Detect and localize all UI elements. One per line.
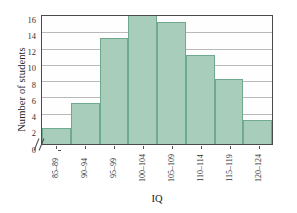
y-tick-label: 2 xyxy=(20,129,36,138)
x-tick-cell: 100–104 xyxy=(128,146,157,192)
x-tick-cell: 110–114 xyxy=(186,146,215,192)
y-tick-label: 8 xyxy=(20,81,36,90)
x-tick-cell: 85–89 xyxy=(41,146,70,192)
x-tick-label: 95–99 xyxy=(110,158,118,178)
x-tick-label: 85–89 xyxy=(52,158,60,178)
bar xyxy=(157,22,186,144)
plot-area xyxy=(41,15,273,145)
x-tick-mark xyxy=(85,146,86,149)
x-axis-title: IQ xyxy=(41,193,273,204)
y-tick-label: 16 xyxy=(20,16,36,25)
x-tick-mark xyxy=(114,146,115,149)
x-tick-label: 120–124 xyxy=(255,154,263,182)
histogram-figure: Number of students 0246810121416 85–8990… xyxy=(0,0,297,213)
y-tick-label: 12 xyxy=(20,48,36,57)
y-axis-tick-labels: 0246810121416 xyxy=(20,10,36,145)
x-tick-cell: 95–99 xyxy=(99,146,128,192)
x-tick-cell: 115–119 xyxy=(215,146,244,192)
bar xyxy=(128,15,157,144)
x-tick-mark xyxy=(201,146,202,149)
x-axis-tick-labels: 85–8990–9495–99100–104105–109110–114115–… xyxy=(41,146,273,192)
bar-series xyxy=(42,16,272,144)
x-tick-cell: 90–94 xyxy=(70,146,99,192)
x-tick-cell: 120–124 xyxy=(244,146,273,192)
x-tick-label: 105–109 xyxy=(168,154,176,182)
x-tick-mark xyxy=(230,146,231,149)
y-tick-label: 10 xyxy=(20,64,36,73)
x-tick-mark xyxy=(172,146,173,149)
x-tick-label: 90–94 xyxy=(81,158,89,178)
x-tick-mark xyxy=(56,146,57,149)
bar xyxy=(71,103,100,144)
y-tick-label: 14 xyxy=(20,32,36,41)
x-tick-label: 115–119 xyxy=(226,154,234,181)
bar xyxy=(243,120,272,144)
bar xyxy=(186,55,215,144)
x-tick-label: 110–114 xyxy=(197,154,205,181)
y-tick-label: 4 xyxy=(20,113,36,122)
bar xyxy=(215,79,244,144)
x-tick-cell: 105–109 xyxy=(157,146,186,192)
x-tick-mark xyxy=(259,146,260,149)
y-tick-label: 6 xyxy=(20,97,36,106)
x-tick-mark xyxy=(143,146,144,149)
x-tick-label: 100–104 xyxy=(139,154,147,182)
bar xyxy=(100,38,129,144)
